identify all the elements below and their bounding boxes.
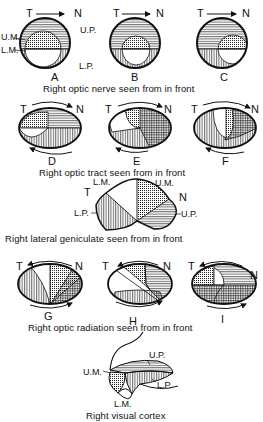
- temporal-label-d: T: [20, 104, 27, 114]
- panel-letter-a: A: [51, 72, 58, 82]
- optic-nerve-panel-a: [14, 14, 73, 71]
- temporal-label-i: T: [188, 261, 195, 271]
- panel-letter-f: F: [222, 156, 229, 166]
- nasal-label-f: N: [251, 104, 259, 114]
- geniculate-temporal-label: T: [84, 187, 91, 197]
- temporal-label-b: T: [113, 8, 120, 18]
- optic-radiation-panel-g: [18, 261, 82, 308]
- nasal-label-c: N: [242, 8, 250, 18]
- temporal-label-h: T: [102, 261, 109, 271]
- optic-tract-panel-f: [193, 102, 257, 154]
- panel-letter-b: B: [131, 72, 138, 82]
- nasal-label-e: N: [164, 104, 172, 114]
- geniculate-upper-peripheral-label: U.P.: [181, 209, 197, 219]
- geniculate-upper-macular-label: U.M.: [155, 178, 174, 188]
- panel-letter-d: D: [48, 156, 56, 166]
- optic-nerve-caption: Right optic nerve seen from in front: [43, 83, 194, 94]
- optic-radiation-panel-i: [192, 262, 256, 309]
- nasal-label-g: N: [75, 261, 83, 271]
- cortex-upper-macular-label: U.M.: [83, 367, 102, 377]
- diagram-canvas: [0, 0, 263, 422]
- optic-tract-panel-d: [18, 102, 82, 154]
- nasal-label-a: N: [74, 8, 82, 18]
- optic-nerve-panel-b: [108, 14, 163, 71]
- lower-macular-label: L.M.: [1, 45, 19, 55]
- optic-tract-caption: Right optic tract seen from in front: [39, 167, 185, 178]
- nasal-label-b: N: [156, 8, 164, 18]
- geniculate-lower-macular-label: L.M.: [93, 177, 111, 187]
- panel-letter-g: G: [44, 311, 53, 321]
- temporal-label-g: T: [16, 261, 23, 271]
- optic-tract-panel-e: [108, 102, 172, 152]
- panel-letter-e: E: [133, 156, 140, 166]
- lateral-geniculate-caption: Right lateral geniculate seen from in fr…: [5, 233, 183, 244]
- visual-cortex-caption: Right visual cortex: [86, 410, 166, 421]
- optic-nerve-panel-c: [195, 14, 250, 71]
- nasal-label-i: N: [250, 270, 258, 280]
- nasal-label-d: N: [76, 104, 84, 114]
- geniculate-lower-peripheral-label: L.P.: [74, 208, 89, 218]
- panel-letter-c: C: [220, 72, 228, 82]
- lower-peripheral-label: L.P.: [79, 61, 94, 71]
- nasal-label-h: N: [163, 261, 171, 271]
- temporal-label-f: T: [191, 104, 198, 114]
- cortex-lower-macular-label: L.M.: [114, 399, 132, 409]
- geniculate-nasal-label: N: [179, 192, 187, 202]
- panel-letter-i: I: [221, 314, 224, 324]
- cortex-upper-peripheral-label: U.P.: [149, 350, 165, 360]
- temporal-label-e: T: [105, 104, 112, 114]
- temporal-label-c: T: [197, 8, 204, 18]
- upper-peripheral-label: U.P.: [80, 25, 96, 35]
- optic-radiation-caption: Right optic radiation seen from in front: [28, 322, 193, 333]
- upper-macular-label: U.M.: [1, 32, 20, 42]
- cortex-lower-peripheral-label: L.P.: [157, 380, 172, 390]
- temporal-label-a: T: [26, 8, 33, 18]
